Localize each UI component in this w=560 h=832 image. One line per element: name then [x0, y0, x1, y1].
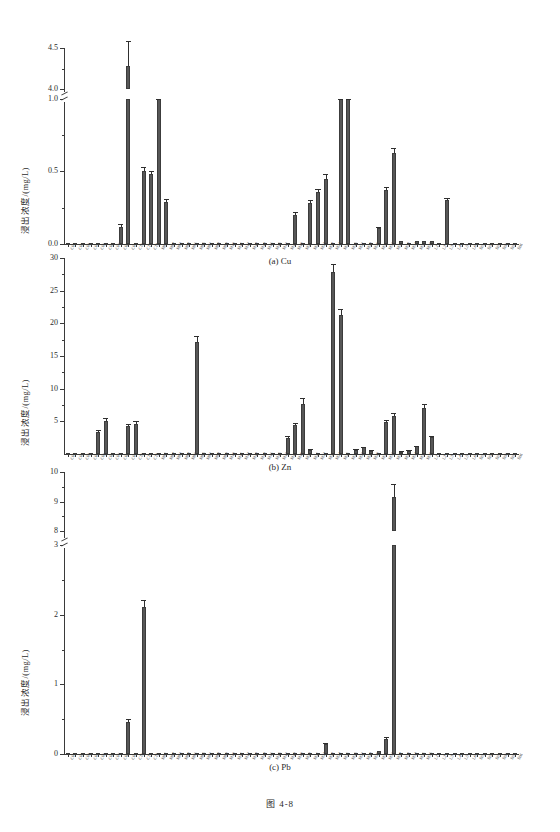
bar[interactable] [225, 243, 229, 245]
bar-upper-segment[interactable] [126, 66, 130, 89]
bar[interactable] [271, 453, 275, 455]
bar[interactable] [437, 243, 441, 245]
bar[interactable] [308, 450, 312, 454]
bar[interactable] [331, 272, 335, 454]
bar[interactable] [430, 437, 434, 454]
bar[interactable] [96, 243, 100, 245]
bar[interactable] [286, 438, 290, 454]
bar[interactable] [407, 451, 411, 454]
bar[interactable] [339, 99, 343, 244]
bar[interactable] [324, 179, 328, 244]
bar[interactable] [164, 453, 168, 455]
bar[interactable] [217, 243, 221, 245]
bar[interactable] [324, 744, 328, 754]
bar[interactable] [301, 404, 305, 454]
bar[interactable] [308, 203, 312, 244]
bar[interactable] [187, 243, 191, 245]
bar[interactable] [164, 202, 168, 244]
bar[interactable] [453, 243, 457, 245]
bar[interactable] [180, 243, 184, 245]
bar[interactable] [422, 408, 426, 454]
bar[interactable] [331, 243, 335, 245]
bar[interactable] [293, 425, 297, 454]
bar[interactable] [392, 416, 396, 454]
bar[interactable] [81, 243, 85, 245]
bar[interactable] [362, 243, 366, 245]
bar[interactable] [142, 453, 146, 455]
bar[interactable] [73, 453, 77, 455]
bar[interactable] [430, 241, 434, 244]
bar[interactable] [104, 753, 108, 755]
bar[interactable] [233, 753, 237, 755]
bar[interactable] [430, 753, 434, 755]
bar[interactable] [506, 753, 510, 755]
bar[interactable] [286, 753, 290, 755]
bar[interactable] [164, 753, 168, 755]
bar[interactable] [490, 453, 494, 455]
bar[interactable] [415, 241, 419, 244]
bar[interactable] [172, 243, 176, 245]
bar[interactable] [255, 453, 259, 455]
bar[interactable] [248, 243, 252, 245]
bar[interactable] [490, 753, 494, 755]
bar[interactable] [142, 171, 146, 244]
bar[interactable] [233, 453, 237, 455]
bar[interactable] [468, 753, 472, 755]
bar[interactable] [104, 243, 108, 245]
bar[interactable] [460, 243, 464, 245]
bar[interactable] [142, 607, 146, 754]
bar[interactable] [453, 453, 457, 455]
bar[interactable] [255, 753, 259, 755]
bar[interactable] [66, 753, 70, 755]
bar-upper-segment[interactable] [392, 497, 396, 531]
bar[interactable] [271, 753, 275, 755]
bar[interactable] [240, 243, 244, 245]
bar[interactable] [354, 450, 358, 454]
bar[interactable] [506, 453, 510, 455]
bar[interactable] [217, 453, 221, 455]
bar[interactable] [96, 432, 100, 454]
bar[interactable] [377, 453, 381, 455]
bar[interactable] [104, 421, 108, 454]
bar[interactable] [445, 200, 449, 244]
bar[interactable] [233, 243, 237, 245]
bar[interactable] [362, 447, 366, 454]
bar[interactable] [415, 753, 419, 755]
bar[interactable] [377, 228, 381, 244]
bar[interactable] [301, 243, 305, 245]
bar[interactable] [399, 753, 403, 755]
bar[interactable] [339, 315, 343, 454]
bar[interactable] [506, 243, 510, 245]
bar[interactable] [453, 753, 457, 755]
bar[interactable] [490, 243, 494, 245]
bar[interactable] [248, 753, 252, 755]
bar[interactable] [180, 753, 184, 755]
bar[interactable] [286, 243, 290, 245]
bar[interactable] [157, 99, 161, 244]
bar[interactable] [89, 243, 93, 245]
bar[interactable] [73, 753, 77, 755]
bar[interactable] [217, 753, 221, 755]
bar[interactable] [354, 243, 358, 245]
bar[interactable] [513, 243, 517, 245]
bar[interactable] [346, 753, 350, 755]
bar[interactable] [134, 243, 138, 245]
bar[interactable] [384, 422, 388, 454]
bar[interactable] [263, 243, 267, 245]
bar[interactable] [149, 174, 153, 244]
bar[interactable] [195, 753, 199, 755]
bar[interactable] [271, 243, 275, 245]
bar[interactable] [293, 215, 297, 244]
bar[interactable] [468, 243, 472, 245]
bar[interactable] [392, 153, 396, 244]
bar[interactable] [362, 753, 366, 755]
bar[interactable] [195, 342, 199, 454]
bar[interactable] [468, 453, 472, 455]
bar[interactable] [255, 243, 259, 245]
bar[interactable] [134, 424, 138, 454]
bar[interactable] [126, 722, 130, 754]
bar[interactable] [73, 243, 77, 245]
bar[interactable] [339, 753, 343, 755]
bar[interactable] [324, 453, 328, 455]
bar[interactable] [437, 753, 441, 755]
